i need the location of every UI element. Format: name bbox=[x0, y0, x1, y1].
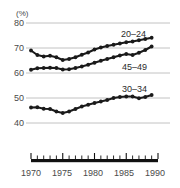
chart-container: (%) 80 70 60 50 40 1970 1975 1980 1985 1… bbox=[0, 0, 180, 188]
plot-area bbox=[0, 0, 180, 188]
